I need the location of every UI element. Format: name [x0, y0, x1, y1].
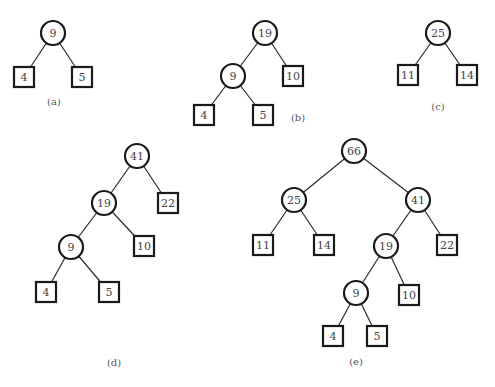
leaf-node-5: 5: [99, 282, 119, 302]
leaf-node-5: 5: [367, 326, 387, 346]
leaf-node-4: 4: [36, 282, 56, 302]
internal-node-25: 25: [282, 188, 306, 212]
node-label: 14: [317, 239, 331, 252]
leaf-node-4: 4: [14, 67, 34, 87]
leaf-node-14: 14: [457, 65, 477, 85]
node-label: 41: [411, 194, 425, 207]
tree-diagram-svg: 9451991045251114411922910456625411114192…: [0, 0, 495, 387]
node-label: 41: [130, 150, 144, 163]
node-label: 9: [353, 287, 360, 300]
node-label: 9: [50, 27, 57, 40]
node-label: 11: [401, 69, 415, 82]
leaf-node-22: 22: [158, 193, 178, 213]
leaf-node-10: 10: [134, 236, 154, 256]
internal-node-41: 41: [125, 144, 149, 168]
leaf-node-22: 22: [437, 235, 457, 255]
huffman-tree-figure: 9451991045251114411922910456625411114192…: [0, 0, 495, 387]
leaf-node-5: 5: [253, 105, 273, 125]
leaf-node-10: 10: [283, 66, 303, 86]
node-label: 22: [440, 239, 454, 252]
panel-caption-d: (d): [107, 357, 121, 368]
node-label: 9: [230, 70, 237, 83]
node-label: 14: [460, 69, 474, 82]
node-label: 11: [256, 239, 270, 252]
panel-caption-c: (c): [431, 101, 445, 112]
node-label: 4: [43, 286, 50, 299]
panel-d: [46, 156, 168, 292]
node-label: 4: [21, 71, 28, 84]
node-label: 19: [379, 240, 393, 253]
nodes-layer: 9451991045251114411922910456625411114192…: [14, 21, 477, 346]
node-label: 10: [402, 289, 416, 302]
internal-node-66: 66: [342, 139, 366, 163]
internal-node-19: 19: [374, 234, 398, 258]
leaf-node-5: 5: [72, 67, 92, 87]
node-label: 5: [374, 330, 381, 343]
internal-node-19: 19: [253, 21, 277, 45]
leaf-node-11: 11: [398, 65, 418, 85]
node-label: 25: [431, 27, 445, 40]
node-label: 19: [97, 197, 111, 210]
node-label: 25: [287, 194, 301, 207]
node-label: 10: [137, 240, 151, 253]
leaf-node-14: 14: [314, 235, 334, 255]
internal-node-41: 41: [406, 188, 430, 212]
internal-node-19: 19: [92, 191, 116, 215]
leaf-node-10: 10: [399, 285, 419, 305]
leaf-node-11: 11: [253, 235, 273, 255]
node-label: 5: [79, 71, 86, 84]
node-label: 4: [330, 330, 337, 343]
leaf-node-4: 4: [323, 326, 343, 346]
internal-node-9: 9: [344, 281, 368, 305]
panel-caption-a: (a): [47, 96, 61, 107]
node-label: 5: [260, 109, 267, 122]
internal-node-25: 25: [426, 21, 450, 45]
internal-node-9: 9: [59, 235, 83, 259]
panel-caption-b: (b): [291, 112, 305, 123]
leaf-node-4: 4: [194, 105, 214, 125]
node-label: 19: [258, 27, 272, 40]
node-label: 4: [201, 109, 208, 122]
panel-e: [263, 151, 447, 336]
internal-node-9: 9: [221, 64, 245, 88]
node-label: 10: [286, 70, 300, 83]
panel-b: [204, 33, 293, 115]
panel-caption-e: (e): [349, 356, 363, 367]
internal-node-9: 9: [41, 21, 65, 45]
node-label: 66: [347, 145, 361, 158]
node-label: 22: [161, 197, 175, 210]
node-label: 9: [68, 241, 75, 254]
node-label: 5: [106, 286, 113, 299]
